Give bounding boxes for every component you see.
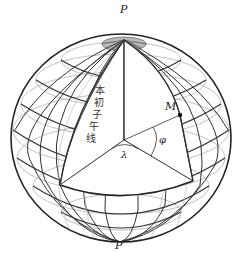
globe-diagram: P P′ M λ φ 本 初 子 午 线: [0, 0, 241, 253]
north-pole-label: P: [120, 4, 127, 15]
globe-graphic: [0, 0, 241, 253]
longitude-label: λ: [121, 150, 127, 160]
point-m-label: M: [165, 101, 176, 112]
south-pole-label: P′: [115, 240, 125, 251]
latitude-label: φ: [159, 135, 166, 145]
point-m-dot: [178, 113, 182, 117]
